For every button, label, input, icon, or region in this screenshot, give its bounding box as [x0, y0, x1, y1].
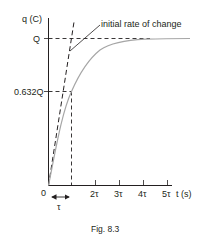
0632q-level-label: 0.632Q [14, 87, 44, 97]
tick-label-4tau: 4τ [138, 189, 147, 199]
tick-label-5tau: 5τ [162, 189, 171, 199]
charge-curve-chart: initial rate of change q (C) Q 0.632Q 0 … [0, 0, 212, 237]
figure-caption: Fig. 8.3 [91, 224, 120, 234]
y-axis-label: q (C) [22, 14, 42, 24]
tick-label-2tau: 2τ [90, 189, 99, 199]
initial-rate-tangent [49, 22, 75, 186]
q-level-label: Q [33, 34, 40, 44]
tau-span-label: τ [57, 202, 61, 212]
x-axis-label: t (s) [176, 189, 192, 199]
origin-label: 0 [41, 188, 46, 198]
annotation-initial-rate: initial rate of change [101, 19, 182, 29]
annotation-leader [70, 25, 100, 51]
charge-curve [49, 39, 191, 186]
tick-label-3tau: 3τ [114, 189, 123, 199]
